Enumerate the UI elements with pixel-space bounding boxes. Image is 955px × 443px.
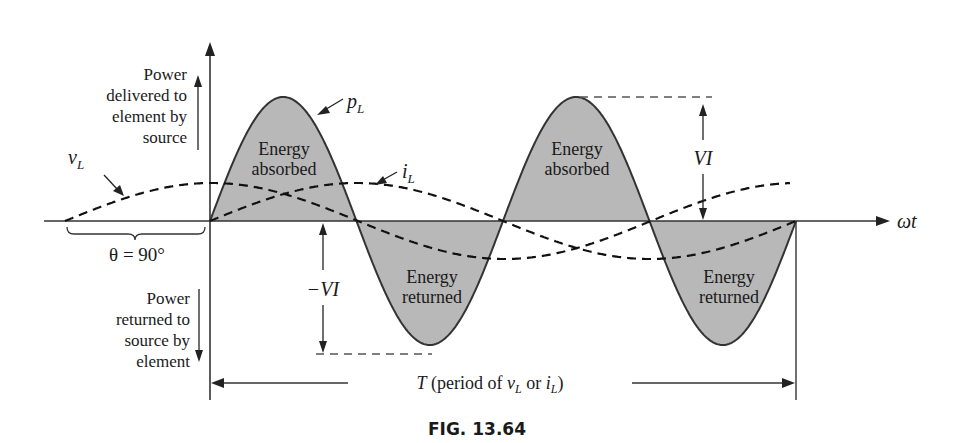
- curve-label-p: pL: [317, 90, 364, 116]
- svg-text:returned: returned: [402, 287, 462, 307]
- svg-text:Power: Power: [144, 65, 188, 84]
- x-axis-label: ωt: [897, 210, 917, 232]
- region-label-1: Energy absorbed: [252, 139, 317, 179]
- svg-text:Energy: Energy: [406, 267, 458, 287]
- figure-caption: FIG. 13.64: [428, 419, 526, 439]
- region-label-2: Energy returned: [402, 267, 462, 307]
- svg-text:Power: Power: [147, 289, 191, 308]
- arrow-up-icon: [194, 75, 202, 87]
- period-arrow-left-icon: [211, 378, 224, 388]
- svg-text:element by: element by: [112, 107, 188, 126]
- svg-text:vL: vL: [68, 146, 84, 172]
- vi-arrow-up-icon: [699, 104, 707, 116]
- x-axis-arrow-icon: [876, 216, 890, 226]
- y-axis-arrow-icon: [205, 42, 215, 56]
- svg-text:Energy: Energy: [703, 267, 755, 287]
- curve-label-i: iL: [375, 160, 415, 186]
- svg-text:delivered to: delivered to: [106, 86, 187, 105]
- svg-text:pL: pL: [345, 90, 364, 116]
- vi-positive-label: VI: [694, 147, 714, 169]
- svg-text:iL: iL: [402, 160, 415, 186]
- svg-text:source: source: [143, 128, 187, 147]
- theta-label: θ = 90°: [109, 244, 165, 265]
- power-delivered-label: Power delivered to element by source: [106, 65, 202, 150]
- power-returned-label: Power returned to source by element: [116, 289, 203, 371]
- vi-arrow-down-icon: [699, 208, 707, 220]
- inductive-power-diagram: VI −VI T (period of vL or iL) θ = 90° ωt…: [0, 0, 955, 443]
- neg-vi-arrow-up-icon: [319, 223, 327, 235]
- curve-label-v: vL: [68, 146, 124, 196]
- theta-brace: [67, 227, 205, 240]
- region-label-4: Energy returned: [699, 267, 759, 307]
- svg-text:source by: source by: [124, 331, 190, 350]
- period-label: T (period of vL or iL): [417, 373, 564, 396]
- svg-text:Energy: Energy: [258, 139, 310, 159]
- svg-text:returned: returned: [699, 287, 759, 307]
- pointer-arrow-icon: [375, 176, 387, 185]
- svg-text:absorbed: absorbed: [545, 159, 610, 179]
- region-label-3: Energy absorbed: [545, 139, 610, 179]
- svg-text:element: element: [136, 352, 190, 371]
- svg-text:returned to: returned to: [116, 310, 190, 329]
- arrow-down-icon: [195, 350, 203, 362]
- neg-vi-arrow-down-icon: [319, 341, 327, 353]
- period-arrow-right-icon: [782, 378, 795, 388]
- svg-text:absorbed: absorbed: [252, 159, 317, 179]
- vi-negative-label: −VI: [307, 278, 341, 300]
- svg-text:Energy: Energy: [551, 139, 603, 159]
